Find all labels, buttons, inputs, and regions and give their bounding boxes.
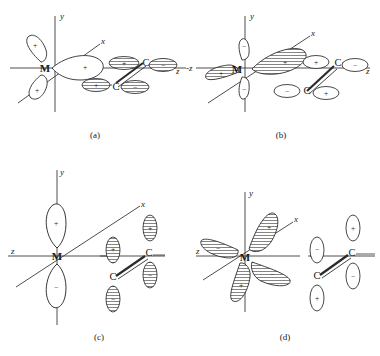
panel-caption-c: (c): [79, 332, 119, 342]
metal-atom-label: M: [40, 62, 51, 74]
panel-caption-d: (d): [265, 332, 305, 342]
orbital-overlap-figure: y x z + + + M C C: [0, 0, 380, 356]
axis-x-label: x: [100, 36, 105, 46]
sign-metal-lower-right: −: [270, 270, 274, 279]
sign-c-left-down: +: [315, 294, 319, 303]
sign-c-lower-inner: +: [94, 81, 98, 90]
sign-c-left-down: −: [111, 295, 115, 304]
axis-z-label: z: [195, 246, 200, 256]
sign-metal-up: −: [242, 42, 246, 51]
sign-c-lower-outer: +: [324, 89, 328, 98]
sign-metal-lower-left: +: [239, 281, 243, 290]
axis-x-label: x: [310, 28, 315, 38]
axis-z-label: z: [10, 246, 15, 256]
axis-y-label: y: [59, 11, 64, 21]
sign-metal-upper-right: +: [267, 223, 271, 232]
panel-d: y x z + − + − M C C: [195, 188, 375, 312]
panel-c: y x z + − M C C: [8, 167, 165, 325]
carbon-left-label: C: [109, 271, 116, 282]
metal-atom-label: M: [52, 250, 63, 262]
metal-lobe-sigma-right: [52, 56, 103, 80]
carbon-left-label: C: [313, 270, 320, 281]
figure-canvas: y x z + + + M C C: [0, 0, 380, 356]
panel-caption-b: (b): [261, 130, 301, 140]
axis-x-label: x: [140, 199, 145, 209]
carbon-lower-label: C: [303, 85, 310, 96]
carbon-lower-label: C: [112, 81, 119, 92]
sign-metal-upper-left: +: [33, 41, 37, 50]
sign-c-upper-outer: −: [161, 61, 165, 70]
metal-atom-label: M: [240, 251, 251, 263]
axis-y-label: y: [59, 167, 64, 177]
sign-metal-up: +: [54, 219, 58, 228]
sign-c-lower-outer: −: [133, 83, 137, 92]
carbon-right-label: C: [348, 247, 355, 258]
sign-c-left-up: +: [111, 245, 115, 254]
carbon-right-label: C: [145, 247, 152, 258]
carbon-upper-label: C: [334, 57, 341, 68]
metal-lobe-upper-right: [252, 48, 306, 74]
panel-caption-a: (a): [75, 130, 115, 140]
sign-metal-lower-left: +: [219, 69, 223, 78]
sign-c-right-up: +: [148, 224, 152, 233]
sign-metal-upper-left: −: [216, 244, 220, 253]
sign-c-upper-inner: +: [314, 58, 318, 67]
sign-metal-down: −: [242, 85, 246, 94]
metal-atom-label: M: [232, 63, 243, 75]
sign-metal-down: −: [54, 283, 58, 292]
sign-metal-lower-left: +: [35, 86, 39, 95]
axis-z-neg-label: -z: [186, 63, 193, 73]
sign-c-right-down: −: [351, 272, 355, 281]
sign-c-right-down: −: [148, 271, 152, 280]
panel-a: y x z + + + M C C: [10, 11, 186, 112]
axis-y-label: y: [248, 188, 253, 198]
metal-lobe-upper-right: [249, 213, 278, 252]
sign-c-right-up: +: [351, 224, 355, 233]
sign-c-upper-outer: −: [353, 61, 357, 70]
sign-c-left-up: −: [315, 245, 319, 254]
cc-double-bond-inner: [320, 255, 348, 275]
sign-c-upper-inner: +: [122, 59, 126, 68]
sign-metal-sigma: +: [83, 63, 87, 72]
cc-double-bond-inner: [116, 256, 145, 276]
panel-b: y x z -z + + − − M C C: [186, 11, 370, 112]
axis-x-line: [16, 206, 140, 287]
sign-c-lower-inner: −: [285, 87, 289, 96]
axis-y-label: y: [249, 11, 254, 21]
axis-x-label: x: [293, 214, 298, 224]
carbon-upper-label: C: [142, 57, 149, 68]
panel-c-axes: [8, 170, 165, 325]
sign-metal-upper-right: +: [283, 58, 287, 67]
